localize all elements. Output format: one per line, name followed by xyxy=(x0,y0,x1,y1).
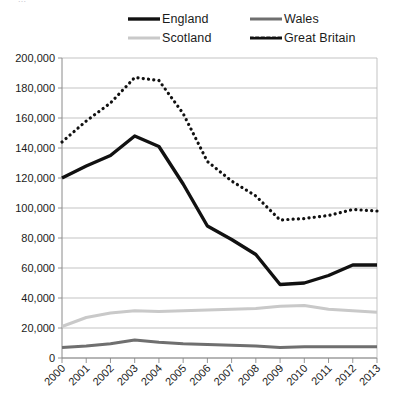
y-tick-label: 120,000 xyxy=(15,172,55,184)
x-tick-label: 2001 xyxy=(66,362,92,388)
series-line-england xyxy=(62,136,377,285)
x-tick-label: 2010 xyxy=(284,362,310,388)
y-tick-label: 0 xyxy=(49,352,55,364)
x-tick-label: 2013 xyxy=(357,362,383,388)
x-tick-label: 2000 xyxy=(42,362,68,388)
series-line-scotland xyxy=(62,306,377,327)
y-axis-tick-labels: 020,00040,00060,00080,000100,000120,0001… xyxy=(15,52,55,364)
series-line-great-britain xyxy=(62,78,377,221)
x-axis-ticks xyxy=(62,358,377,363)
y-tick-label: 100,000 xyxy=(15,202,55,214)
y-tick-label: 40,000 xyxy=(21,292,55,304)
line-chart-figure: ... England Wales Scotland Great Britain… xyxy=(0,0,396,399)
y-tick-label: 160,000 xyxy=(15,112,55,124)
chart-plot-area: 020,00040,00060,00080,000100,000120,0001… xyxy=(0,0,396,399)
x-tick-label: 2008 xyxy=(235,362,261,388)
x-axis-tick-labels: 2000200120022003200420052006200720082009… xyxy=(42,362,383,388)
y-tick-label: 80,000 xyxy=(21,232,55,244)
x-tick-label: 2003 xyxy=(114,362,140,388)
x-tick-label: 2009 xyxy=(260,362,286,388)
y-tick-label: 140,000 xyxy=(15,142,55,154)
x-tick-label: 2006 xyxy=(187,362,213,388)
x-tick-label: 2004 xyxy=(139,362,165,388)
y-tick-label: 200,000 xyxy=(15,52,55,64)
x-tick-label: 2012 xyxy=(332,362,358,388)
series-line-wales xyxy=(62,340,377,348)
x-tick-label: 2011 xyxy=(309,362,334,387)
y-tick-label: 60,000 xyxy=(21,262,55,274)
x-tick-label: 2002 xyxy=(90,362,116,388)
x-tick-label: 2007 xyxy=(211,362,237,388)
x-tick-label: 2005 xyxy=(163,362,189,388)
y-tick-label: 20,000 xyxy=(21,322,55,334)
y-tick-label: 180,000 xyxy=(15,82,55,94)
